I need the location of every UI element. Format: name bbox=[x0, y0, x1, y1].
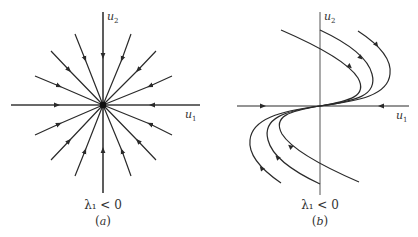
trajectory-curve bbox=[281, 30, 361, 106]
condition-label-a: λ₁ < 0 bbox=[84, 198, 122, 212]
trajectory-ray bbox=[103, 34, 131, 105]
trajectory-ray bbox=[103, 51, 156, 105]
panel-b-degenerate-node: u2 u1 λ₁ < 0 (b) bbox=[237, 10, 409, 228]
panel-a-star-node: u2 u1 λ₁ < 0 (a) bbox=[11, 10, 200, 228]
trajectory-ray bbox=[103, 105, 131, 176]
trajectories-a bbox=[11, 12, 200, 193]
trajectory-curve bbox=[279, 106, 359, 182]
trajectory-ray bbox=[51, 105, 103, 160]
u2-label-a: u2 bbox=[107, 10, 119, 25]
u2-label-b: u2 bbox=[324, 10, 336, 25]
arrow-icon bbox=[274, 154, 281, 161]
trajectory-curve bbox=[267, 106, 320, 184]
caption-a: (a) bbox=[95, 214, 111, 228]
trajectory-curve bbox=[320, 30, 373, 106]
equilibrium-point-a bbox=[100, 102, 106, 108]
condition-label-b: λ₁ < 0 bbox=[301, 198, 339, 212]
trajectories-b bbox=[237, 30, 409, 184]
arrow-icon bbox=[258, 165, 265, 172]
trajectory-curve bbox=[250, 106, 320, 183]
u1-label-a: u1 bbox=[185, 108, 197, 123]
trajectory-ray bbox=[103, 105, 156, 160]
trajectory-curve bbox=[320, 31, 390, 106]
trajectory-ray bbox=[51, 51, 103, 105]
u1-label-b: u1 bbox=[396, 109, 408, 124]
caption-b: (b) bbox=[312, 214, 328, 228]
phase-portrait-figure: u2 u1 λ₁ < 0 (a) bbox=[0, 0, 418, 237]
